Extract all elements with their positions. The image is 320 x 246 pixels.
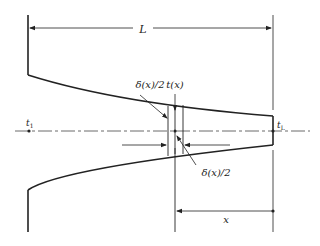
tip-temp-label: tL [277,120,285,131]
distance-label: x [223,214,229,225]
element-center-point [173,129,176,132]
fin-diagram: L δ(x)/2 t(x) δ(x)/2 t1 tL x [0,0,320,246]
fin-outline [28,15,273,232]
length-dimension: L [30,23,271,36]
length-label: L [138,23,146,36]
element-label: t(x) [166,79,184,90]
lower-half-thickness-label: δ(x)/2 [201,167,230,178]
upper-half-thickness-label: δ(x)/2 [135,79,164,90]
lower-profile [28,145,273,190]
base-temp-label: t1 [26,118,33,129]
distance-dimension: x [177,209,275,225]
base-point [27,129,30,132]
tip-point [271,129,274,132]
